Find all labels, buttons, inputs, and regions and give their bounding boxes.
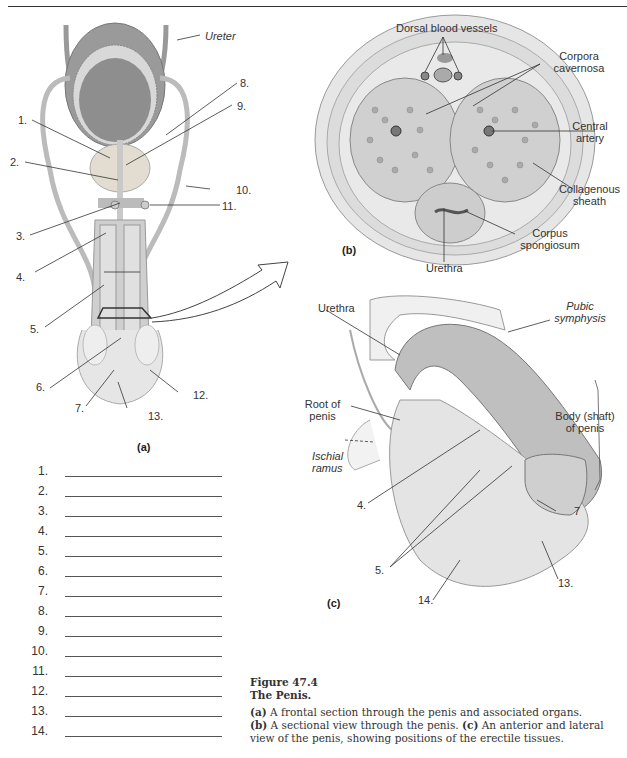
label-corpora-cavernosa-2: cavernosa [544, 62, 614, 74]
answer-row-5[interactable]: 5. [20, 544, 210, 564]
answer-number: 1. [38, 464, 48, 478]
answer-number: 8. [38, 604, 48, 618]
label-pubic-symphysis-1: Pubic [545, 300, 615, 312]
label-collagenous-sheath-2: sheath [552, 195, 627, 207]
answer-row-6[interactable]: 6. [20, 564, 210, 584]
answer-line-12[interactable] [65, 696, 222, 697]
answer-row-1[interactable]: 1. [20, 464, 210, 484]
label-body-shaft-2: of penis [545, 422, 625, 434]
answer-line-11[interactable] [65, 676, 222, 677]
answer-line-2[interactable] [65, 496, 222, 497]
caption-part-a-text: A frontal section through the penis and … [267, 706, 582, 718]
answer-line-13[interactable] [65, 716, 222, 717]
answer-row-9[interactable]: 9. [20, 624, 210, 644]
answer-line-14[interactable] [65, 736, 222, 737]
label-central-artery-1: Central [560, 120, 620, 132]
answer-number: 6. [38, 564, 48, 578]
caption-part-b-text: A sectional view through the penis. [267, 719, 462, 731]
label-a-7: 7. [75, 402, 84, 414]
answer-number: 12. [31, 684, 48, 698]
answer-number: 5. [38, 544, 48, 558]
answer-line-8[interactable] [65, 616, 222, 617]
caption-part-b-tag: (b) [250, 719, 267, 731]
answer-line-5[interactable] [65, 556, 222, 557]
label-ureter: Ureter [205, 30, 236, 42]
figure-number: Figure 47.4 [250, 676, 625, 689]
figure-title: The Penis. [250, 689, 625, 702]
label-a-11: 11. [222, 200, 236, 212]
answer-row-4[interactable]: 4. [20, 524, 210, 544]
answer-row-10[interactable]: 10. [20, 644, 210, 664]
label-central-artery-2: artery [560, 132, 620, 144]
label-a-12: 12. [193, 389, 208, 401]
answer-line-3[interactable] [65, 516, 222, 517]
figure-caption: Figure 47.4 The Penis. (a) A frontal sec… [250, 676, 625, 745]
answer-number: 10. [31, 644, 48, 658]
caption-part-c-tag: (c) [462, 719, 478, 731]
label-c-urethra: Urethra [318, 302, 355, 314]
label-corpora-cavernosa-1: Corpora [544, 50, 614, 62]
label-root-of-penis-2: penis [295, 410, 350, 422]
answer-row-7[interactable]: 7. [20, 584, 210, 604]
answer-number: 13. [31, 704, 48, 718]
label-a-1: 1. [18, 114, 27, 126]
answer-row-3[interactable]: 3. [20, 504, 210, 524]
label-a-10: 10. [236, 184, 251, 196]
label-a-2: 2. [10, 156, 19, 168]
answer-number: 3. [38, 504, 48, 518]
answer-number: 4. [38, 524, 48, 538]
answer-number: 11. [32, 664, 48, 678]
answer-line-9[interactable] [65, 636, 222, 637]
answer-line-1[interactable] [65, 476, 222, 477]
label-c-13: 13. [558, 577, 573, 589]
label-collagenous-sheath-1: Collagenous [552, 183, 627, 195]
label-a-8: 8. [240, 77, 249, 89]
answer-number: 14. [31, 724, 48, 738]
label-a-9: 9. [237, 100, 246, 112]
answer-row-13[interactable]: 13. [20, 704, 210, 724]
answer-line-7[interactable] [65, 596, 222, 597]
figure-a-tag: (a) [137, 441, 150, 453]
label-a-4: 4. [16, 271, 25, 283]
figure-description: (a) A frontal section through the penis … [250, 706, 625, 745]
answer-number: 2. [38, 484, 48, 498]
label-pubic-symphysis-2: symphysis [545, 312, 615, 324]
label-ischial-ramus-2: ramus [312, 462, 343, 474]
label-c-7: 7 [574, 505, 580, 517]
label-corpus-spongiosum-2: spongiosum [510, 239, 590, 251]
label-dorsal-blood-vessels: Dorsal blood vessels [396, 22, 498, 34]
answer-row-2[interactable]: 2. [20, 484, 210, 504]
label-root-of-penis-1: Root of [295, 398, 350, 410]
label-c-4: 4. [357, 499, 366, 511]
answer-row-8[interactable]: 8. [20, 604, 210, 624]
answer-row-12[interactable]: 12. [20, 684, 210, 704]
answer-line-4[interactable] [65, 536, 222, 537]
answer-line-6[interactable] [65, 576, 222, 577]
answer-row-14[interactable]: 14. [20, 724, 210, 744]
answer-number: 7. [38, 584, 48, 598]
answer-row-11[interactable]: 11. [20, 664, 210, 684]
label-corpus-spongiosum-1: Corpus [510, 227, 590, 239]
label-a-13: 13. [148, 410, 163, 422]
label-b-urethra: Urethra [426, 262, 463, 274]
label-c-5: 5. [375, 564, 384, 576]
label-a-5: 5. [30, 323, 39, 335]
answer-number: 9. [38, 624, 48, 638]
label-a-6: 6. [36, 381, 45, 393]
label-body-shaft-1: Body (shaft) [545, 410, 625, 422]
figure-b-tag: (b) [342, 244, 356, 256]
answer-line-10[interactable] [65, 656, 222, 657]
label-ischial-ramus-1: Ischial [312, 450, 343, 462]
label-c-14: 14. [418, 594, 433, 606]
label-a-3: 3. [16, 230, 25, 242]
figure-c-tag: (c) [327, 597, 340, 609]
caption-part-a-tag: (a) [250, 706, 267, 718]
